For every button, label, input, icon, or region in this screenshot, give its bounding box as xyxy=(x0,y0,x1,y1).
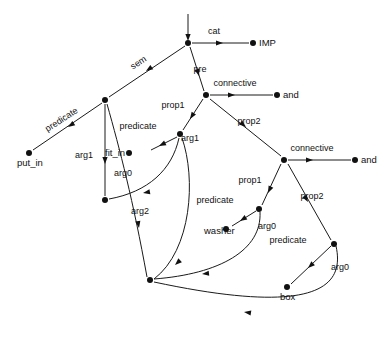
and-node-lower xyxy=(352,157,358,163)
edge-connective-lower-label: connective xyxy=(290,143,333,153)
edge-prop1-lower-label: prop1 xyxy=(238,175,261,185)
node-labels-group: IMPput_inandfit_inandwasherbox xyxy=(17,37,377,302)
fit-in-node-label: fit_in xyxy=(105,147,125,158)
edge-arg0-fit-in-label: arg0 xyxy=(114,168,132,178)
edge-predicate-fit-in-arrowhead xyxy=(158,141,167,149)
entry-arrow-arrowhead xyxy=(185,34,190,41)
edge-arg1-sem-arrowhead xyxy=(102,157,107,164)
and-node-upper xyxy=(274,92,280,98)
root-node xyxy=(185,40,191,46)
edge-arg2-sem-label: arg2 xyxy=(131,206,149,216)
pre-connective-node xyxy=(203,92,209,98)
box-predicate-node xyxy=(331,241,337,247)
edge-arg1-sem-label: arg1 xyxy=(75,150,93,160)
edge-prop2-upper-label: prop2 xyxy=(237,116,260,126)
edge-prop1-upper-label: prop1 xyxy=(161,100,184,110)
box-node-label: box xyxy=(280,291,296,302)
edge-predicate-put-in-label: predicate xyxy=(43,105,80,134)
edge-pre-label: pre xyxy=(193,64,206,74)
edge-arg0-washer xyxy=(154,212,260,279)
edge-arg2-sem-arrowhead xyxy=(135,221,141,229)
edge-predicate-washer-label: predicate xyxy=(196,195,233,205)
arg1-target-node xyxy=(102,197,108,203)
sem-target-node xyxy=(102,97,108,103)
imp-node-label: IMP xyxy=(259,37,276,48)
edge-arg0-box-label: arg0 xyxy=(331,262,349,272)
and-node-upper-label: and xyxy=(283,89,299,100)
edge-prop1-lower xyxy=(262,164,281,205)
edge-prop2-lower xyxy=(288,164,331,240)
box-node xyxy=(284,284,290,290)
edge-arg0-box xyxy=(154,246,338,297)
edge-arg0-washer-arrowhead xyxy=(202,271,210,277)
edge-labels-group: catsemprepredicateconnectiveprop1prop2pr… xyxy=(43,26,349,272)
edge-connective-lower-arrowhead xyxy=(306,157,313,162)
imp-node xyxy=(250,40,256,46)
washer-node-label: washer xyxy=(203,225,235,236)
diagram-canvas: catsemprepredicateconnectiveprop1prop2pr… xyxy=(0,0,391,341)
edge-prop1-upper-arrowhead xyxy=(188,112,196,121)
edge-arg0-washer-label: arg0 xyxy=(258,221,276,231)
edge-arg1-fit-in-arrowhead xyxy=(173,258,182,267)
edge-cat-arrowhead xyxy=(216,40,223,45)
washer-predicate-node xyxy=(256,206,262,212)
and-node-lower-label: and xyxy=(361,154,377,165)
graph-svg: catsemprepredicateconnectiveprop1prop2pr… xyxy=(0,0,391,341)
edge-arg1-fit-in-label: arg1 xyxy=(181,133,199,143)
edge-predicate-washer-arrowhead xyxy=(239,215,248,223)
edge-predicate-fit-in-label: predicate xyxy=(119,121,156,131)
put-in-node xyxy=(26,150,32,156)
edge-cat-label: cat xyxy=(208,26,221,36)
edge-prop2-upper xyxy=(210,99,281,156)
edge-predicate-box-label: predicate xyxy=(269,235,306,245)
connective-node-lower xyxy=(281,157,287,163)
edge-arg0-box-arrowhead xyxy=(244,309,252,315)
put-in-node-label: put_in xyxy=(17,157,43,168)
edge-prop1-lower-arrowhead xyxy=(266,186,274,195)
edge-sem-label: sem xyxy=(129,54,149,72)
edge-sem xyxy=(109,46,185,97)
edge-connective-upper-label: connective xyxy=(213,78,256,88)
edge-arg0-fit-in-arrowhead xyxy=(143,189,151,195)
edge-prop2-lower-label: prop2 xyxy=(300,191,323,201)
fit-in-node xyxy=(126,150,132,156)
edge-connective-upper-arrowhead xyxy=(228,92,235,97)
nodes-group xyxy=(26,40,358,290)
bottom-shared-node xyxy=(147,277,153,283)
